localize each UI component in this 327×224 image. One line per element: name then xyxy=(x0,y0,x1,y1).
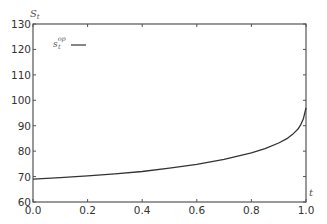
y-tick-label: 80 xyxy=(18,145,31,157)
x-tick-label: 0.0 xyxy=(25,204,42,216)
plot-area-border xyxy=(33,24,306,202)
y-tick-label: 70 xyxy=(18,171,31,183)
y-tick-label: 130 xyxy=(11,18,31,30)
series-lines xyxy=(33,108,306,179)
x-tick-label: 0.4 xyxy=(134,204,151,216)
y-tick-label: 110 xyxy=(11,69,31,81)
x-axis-label: t xyxy=(309,187,314,198)
y-tick-label: 90 xyxy=(18,120,31,132)
y-tick-label: 100 xyxy=(11,94,31,106)
legend-label-sub: t xyxy=(58,43,61,51)
series-line-s-t-op xyxy=(33,108,306,179)
x-tick-label: 0.2 xyxy=(79,204,96,216)
x-tick-label: 1.0 xyxy=(298,204,315,216)
x-axis-ticks: 0.00.20.40.60.81.0 xyxy=(25,24,315,216)
x-tick-label: 0.8 xyxy=(243,204,260,216)
x-tick-label: 0.6 xyxy=(188,204,205,216)
y-axis-label: St xyxy=(30,8,40,21)
chart: 60708090100110120130 0.00.20.40.60.81.0 … xyxy=(0,0,327,224)
plot-frame xyxy=(33,24,306,202)
y-tick-label: 120 xyxy=(11,43,31,55)
legend: sop t xyxy=(53,35,86,51)
